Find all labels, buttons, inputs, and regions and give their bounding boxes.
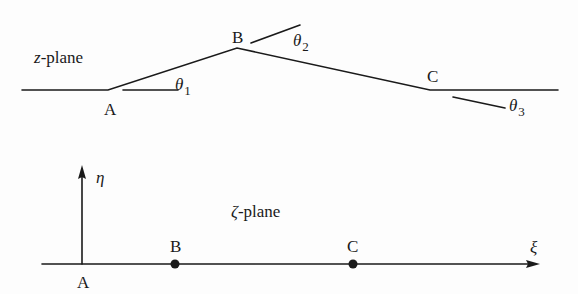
theta-index: 2 [302,39,309,54]
figure-lines [0,0,578,294]
theta3-reference-line [453,97,505,108]
zeta-point-a-label: A [77,274,89,291]
point-c-marker [349,260,358,269]
eta-axis-label: η [96,169,104,186]
z-point-b-label: B [232,29,243,46]
xi-axis-label: ξ [530,239,537,256]
plane-suffix: -plane [238,202,280,221]
theta3-label: θ3 [509,97,525,114]
theta1-label: θ1 [175,76,191,93]
theta-symbol: θ [175,75,183,94]
theta-index: 1 [184,83,191,98]
theta-symbol: θ [509,96,517,115]
theta-index: 3 [518,104,525,119]
theta2-label: θ2 [293,32,309,49]
zeta-point-c-label: C [347,238,358,255]
z-plane-boundary [22,48,558,90]
z-variable: z [34,48,41,67]
z-plane-label: z-plane [34,49,83,66]
z-point-c-label: C [427,68,438,85]
zeta-plane-label: ζ-plane [231,203,280,220]
point-b-marker [171,260,180,269]
conformal-mapping-figure: z-plane A B C θ1 θ2 θ3 ζ-plane η ξ A B C [0,0,578,294]
z-point-a-label: A [104,101,116,118]
xi-axis-arrowhead [526,260,540,268]
plane-suffix: -plane [41,48,83,67]
eta-axis-arrowhead [78,165,86,179]
theta-symbol: θ [293,31,301,50]
zeta-variable: ζ [231,202,238,221]
zeta-point-b-label: B [170,238,181,255]
